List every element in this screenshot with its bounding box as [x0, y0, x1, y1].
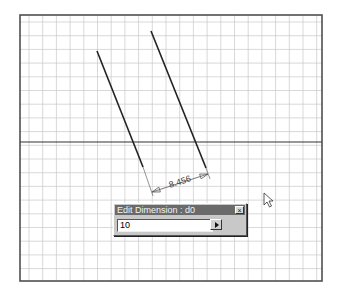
extension-line	[206, 168, 210, 179]
edit-dimension-dialog: Edit Dimension : d0 × 10	[113, 203, 247, 236]
sketch-canvas[interactable]: 8.456	[0, 0, 340, 298]
dimension-value-input[interactable]: 10	[117, 219, 213, 232]
play-arrow-icon	[215, 222, 219, 228]
grid	[20, 15, 322, 281]
sketch-line[interactable]	[151, 31, 206, 168]
sketch-line[interactable]	[97, 51, 143, 167]
dialog-title: Edit Dimension : d0	[117, 205, 195, 215]
apply-arrow-button[interactable]	[210, 219, 222, 230]
mouse-pointer-icon	[264, 193, 273, 207]
dialog-titlebar[interactable]: Edit Dimension : d0 ×	[115, 205, 245, 215]
extension-line	[143, 167, 153, 196]
close-button[interactable]: ×	[235, 206, 244, 214]
